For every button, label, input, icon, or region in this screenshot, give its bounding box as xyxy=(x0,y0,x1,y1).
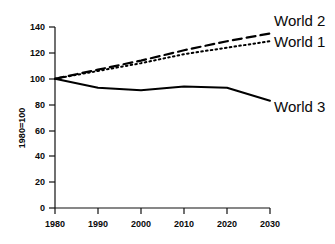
x-tick-label-2010: 2010 xyxy=(174,219,194,229)
series-label-world-2: World 2 xyxy=(274,12,325,29)
x-tick-label-2030: 2030 xyxy=(260,219,280,229)
y-tick-label-0: 0 xyxy=(40,203,45,213)
y-tick-label-40: 40 xyxy=(35,151,45,161)
line-chart: 140 120 100 80 60 40 20 0 1980=100 1980 … xyxy=(0,0,335,244)
x-tick-label-1980: 1980 xyxy=(45,219,65,229)
y-tick-label-140: 140 xyxy=(30,22,45,32)
series-line-world-2 xyxy=(55,33,270,78)
y-tick-label-20: 20 xyxy=(35,177,45,187)
series-label-world-3: World 3 xyxy=(274,98,325,115)
series-label-world-1: World 1 xyxy=(274,33,325,50)
x-tick-label-1990: 1990 xyxy=(88,219,108,229)
y-tick-label-120: 120 xyxy=(30,48,45,58)
y-tick-label-80: 80 xyxy=(35,100,45,110)
y-axis-title: 1980=100 xyxy=(17,108,27,148)
series-line-world-1 xyxy=(55,41,270,78)
series-line-world-3 xyxy=(55,79,270,101)
chart-page: 140 120 100 80 60 40 20 0 1980=100 1980 … xyxy=(0,0,335,244)
x-tick-label-2020: 2020 xyxy=(217,219,237,229)
y-tick-label-100: 100 xyxy=(30,74,45,84)
x-tick-label-2000: 2000 xyxy=(131,219,151,229)
y-tick-label-60: 60 xyxy=(35,126,45,136)
